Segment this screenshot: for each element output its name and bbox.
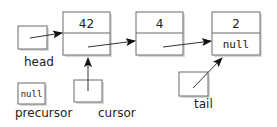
node-2-data: 2 — [232, 17, 240, 31]
cursor-pointer — [74, 80, 104, 104]
head-pointer — [18, 26, 49, 51]
tail-label: tail — [194, 97, 213, 111]
node-2-link-null: null — [223, 38, 250, 51]
cursor-label: cursor — [98, 106, 136, 120]
linked-list-diagram: head 42 4 2 null null precursor cursor t… — [0, 0, 277, 127]
precursor-null: null — [21, 89, 43, 99]
node-42-data: 42 — [79, 17, 94, 31]
node-4-data: 4 — [156, 17, 164, 31]
precursor-label: precursor — [15, 106, 72, 120]
head-label: head — [24, 55, 54, 69]
